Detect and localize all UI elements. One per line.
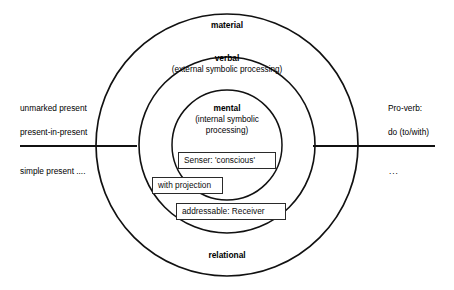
ring-subtitle-mental: (internal symbolic processing) (195, 114, 259, 136)
right-label-do-to-with: do (to/with) (388, 127, 429, 138)
ring-label-relational: relational (208, 250, 245, 261)
left-label-simple-present: simple present .... (20, 166, 85, 177)
circles-and-axis-layer (0, 0, 454, 290)
ring-subtitle-verbal: (external symbolic processing) (172, 64, 283, 75)
ring-label-mental: mental (internal symbolic processing) (195, 103, 259, 136)
ring-name-relational: relational (208, 250, 245, 261)
ring-name-material: material (211, 20, 243, 31)
left-label-present-in-present: present-in-present (20, 127, 87, 138)
ring-name-mental: mental (195, 103, 259, 114)
ring-label-material: material (211, 20, 243, 31)
diagram-canvas: material verbal (external symbolic proce… (0, 0, 454, 290)
right-label-pro-verb: Pro-verb: (388, 103, 422, 114)
right-label-ellipsis: ... (389, 166, 399, 177)
callout-box-addressable-receiver: addressable: Receiver (176, 203, 286, 220)
left-label-unmarked-present: unmarked present (20, 103, 87, 114)
callout-box-senser: Senser: 'conscious' (178, 152, 276, 169)
ring-name-verbal: verbal (172, 53, 283, 64)
ring-label-verbal: verbal (external symbolic processing) (172, 53, 283, 75)
callout-box-with-projection: with projection (152, 177, 223, 194)
